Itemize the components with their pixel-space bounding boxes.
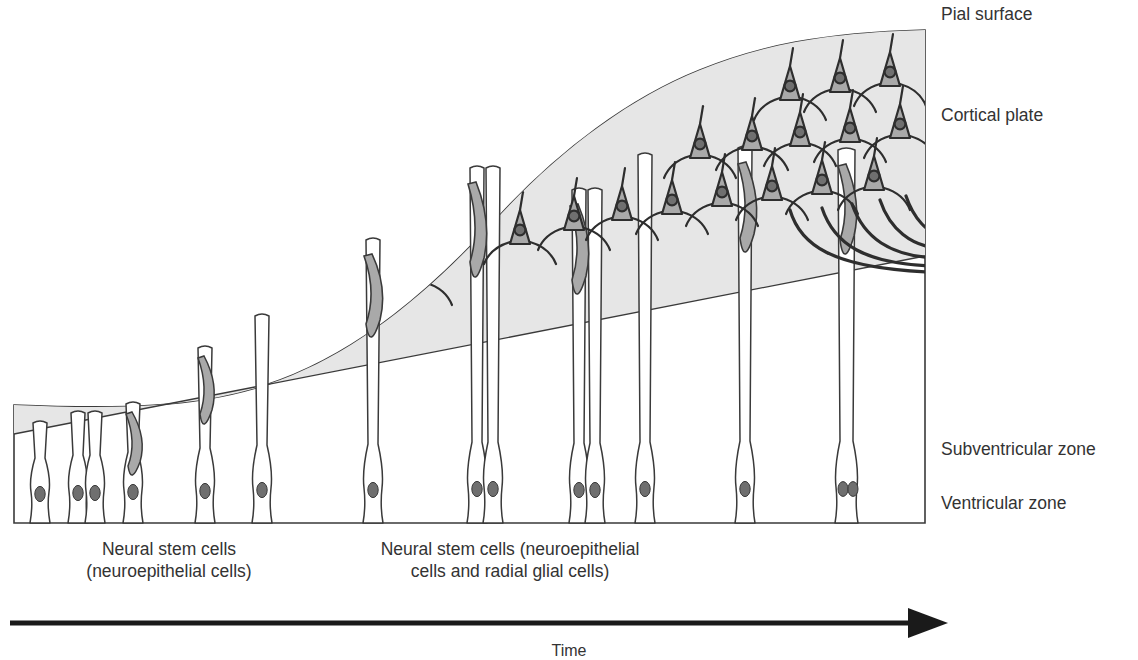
nucleus (515, 225, 526, 236)
nucleus (869, 171, 880, 182)
nucleus (667, 195, 678, 206)
label-pial-surface: Pial surface (941, 3, 1032, 25)
nucleus (795, 127, 806, 138)
tissue-block (14, 30, 925, 523)
nucleus (740, 481, 750, 496)
neuroepithelial-cell (85, 411, 105, 523)
nucleus (569, 211, 580, 222)
caption-left-line-2: (neuroepithelial cells) (24, 560, 314, 582)
nucleus (695, 139, 706, 150)
label-cortical-plate: Cortical plate (941, 104, 1043, 126)
nucleus (617, 201, 628, 212)
label-subventricular-zone: Subventricular zone (941, 438, 1096, 460)
caption-left-line-1: Neural stem cells (24, 538, 314, 560)
neuroepithelial-cell (68, 411, 88, 523)
nucleus (411, 266, 422, 277)
caption-right-line-2: cells and radial glial cells) (345, 560, 675, 582)
nucleus (574, 482, 584, 497)
nucleus (128, 484, 138, 499)
nucleus (817, 175, 828, 186)
nucleus (717, 187, 728, 198)
axis-time-label: Time (0, 641, 1138, 660)
nucleus (885, 67, 896, 78)
caption-neuroepithelial-cells: Neural stem cells (neuroepithelial cells… (24, 538, 314, 583)
nucleus (848, 482, 858, 497)
nucleus (90, 485, 100, 500)
nucleus (488, 481, 498, 496)
caption-right-line-1: Neural stem cells (neuroepithelial (345, 538, 675, 560)
nucleus (835, 73, 846, 84)
label-ventricular-zone: Ventricular zone (941, 492, 1067, 514)
nucleus (590, 482, 600, 497)
nucleus (35, 486, 45, 501)
nucleus (747, 131, 758, 142)
nucleus (200, 483, 210, 498)
nucleus (767, 181, 778, 192)
nucleus (283, 319, 294, 330)
nucleus (845, 123, 856, 134)
nucleus (368, 482, 378, 497)
nucleus (472, 481, 482, 496)
time-arrow (10, 608, 948, 638)
nucleus (785, 81, 796, 92)
nucleus (257, 482, 267, 497)
caption-radial-glial-cells: Neural stem cells (neuroepithelial cells… (345, 538, 675, 583)
nucleus (73, 485, 83, 500)
nucleus (640, 481, 650, 496)
nucleus (838, 482, 848, 497)
nucleus (895, 119, 906, 130)
